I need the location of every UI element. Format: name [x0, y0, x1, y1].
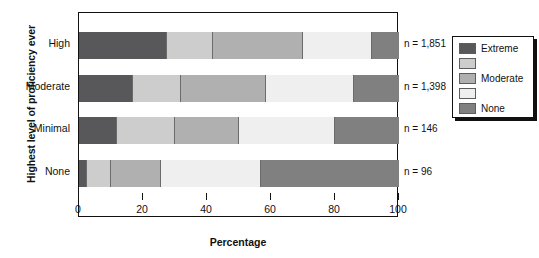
- y-axis-tick-label-high: High: [0, 37, 70, 49]
- bar-segment: [167, 32, 213, 59]
- bar-segment: [79, 117, 117, 144]
- legend-swatch-moderate: [459, 73, 476, 84]
- x-axis-tick-label-20: 20: [122, 203, 162, 215]
- x-axis-tick-40: [206, 193, 207, 200]
- sample-size-none: n = 96: [404, 166, 432, 177]
- legend-swatch-extreme: [459, 43, 476, 54]
- x-axis-tick-80: [334, 193, 335, 200]
- legend-swatch-none: [459, 103, 476, 114]
- legend-item-4: [459, 86, 533, 100]
- sample-size-minimal: n = 146: [404, 123, 438, 134]
- legend-swatch-4: [459, 88, 476, 99]
- bar-segment: [239, 117, 335, 144]
- bar-segment: [335, 117, 399, 144]
- legend-label-none: None: [481, 103, 505, 114]
- bar-segment: [87, 160, 111, 187]
- x-axis-tick-label-0: 0: [58, 203, 98, 215]
- legend-item-2: [459, 56, 533, 70]
- stacked-bar-chart-figure: Highest level of proficiency ever High M…: [0, 0, 539, 258]
- bar-segment: [303, 32, 372, 59]
- x-axis-title: Percentage: [78, 236, 398, 248]
- legend-item-moderate: Moderate: [459, 71, 533, 85]
- bar-minimal: [79, 117, 399, 144]
- x-axis-tick-100: [398, 193, 399, 200]
- bar-segment: [117, 117, 175, 144]
- x-axis-tick-label-60: 60: [250, 203, 290, 215]
- bar-segment: [213, 32, 303, 59]
- x-axis-tick-label-100: 100: [378, 203, 418, 215]
- x-axis-tick-label-40: 40: [186, 203, 226, 215]
- bar-segment: [175, 117, 239, 144]
- legend-label-moderate: Moderate: [481, 73, 523, 84]
- bar-segment: [79, 32, 167, 59]
- x-axis-tick-60: [270, 193, 271, 200]
- y-axis-tick-label-moderate: Moderate: [0, 80, 70, 92]
- plot-area: [78, 12, 398, 217]
- x-axis-tick-0: [78, 193, 79, 200]
- y-axis-tick-label-minimal: Minimal: [0, 122, 70, 134]
- legend-swatch-2: [459, 58, 476, 69]
- bar-high: [79, 32, 399, 59]
- bar-segment: [79, 75, 133, 102]
- legend: Extreme Moderate None: [452, 36, 534, 118]
- bar-segment: [354, 75, 399, 102]
- bar-segment: [261, 160, 399, 187]
- bar-segment: [79, 160, 87, 187]
- legend-item-none: None: [459, 101, 533, 115]
- x-axis-tick-label-80: 80: [314, 203, 354, 215]
- bar-segment: [266, 75, 354, 102]
- sample-size-high: n = 1,851: [404, 38, 446, 49]
- legend-label-extreme: Extreme: [481, 43, 518, 54]
- bar-moderate: [79, 75, 399, 102]
- bar-segment: [181, 75, 266, 102]
- bar-segment: [111, 160, 161, 187]
- bar-segment: [372, 32, 399, 59]
- bar-segment: [133, 75, 181, 102]
- sample-size-moderate: n = 1,398: [404, 81, 446, 92]
- legend-item-extreme: Extreme: [459, 41, 533, 55]
- bar-segment: [161, 160, 262, 187]
- x-axis-tick-20: [142, 193, 143, 200]
- y-axis-tick-label-none: None: [0, 165, 70, 177]
- bar-none: [79, 160, 399, 187]
